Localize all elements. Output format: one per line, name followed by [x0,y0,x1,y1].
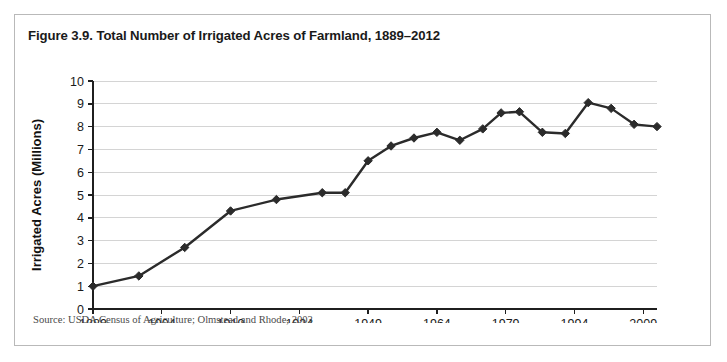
x-tick-label: 1994 [561,317,589,323]
data-point-marker [653,122,661,130]
x-tick-label: 2009 [629,317,657,323]
data-point-marker [433,128,441,136]
series-line [93,103,657,287]
y-tick-label: 10 [70,75,84,89]
data-point-markers [89,98,661,290]
y-axis-title: Irrigated Acres (Millions) [29,119,44,271]
data-point-marker [272,195,280,203]
data-point-marker [456,136,464,144]
data-point-marker [410,134,418,142]
y-tick-label: 3 [77,234,84,248]
data-series [93,103,657,287]
data-point-marker [89,282,97,290]
x-tick-label: 1979 [492,317,520,323]
y-tick-label: 5 [77,189,84,203]
source-note: Source: USDA Census of Agriculture; Olms… [33,314,313,325]
y-tick-label: 9 [77,97,84,111]
chart-canvas: 012345678910 188919041919193419491964197… [15,55,710,323]
figure-title: Figure 3.9. Total Number of Irrigated Ac… [28,28,440,43]
y-tick-label: 2 [77,257,84,271]
y-tick-label: 6 [77,166,84,180]
y-tick-label: 4 [77,211,84,225]
line-chart: 012345678910 188919041919193419491964197… [15,55,710,323]
y-tick-label: 1 [77,280,84,294]
x-tick-label: 1964 [423,317,451,323]
y-tick-label: 7 [77,143,84,157]
y-axis-tick-labels: 012345678910 [70,75,84,317]
y-tick-label: 8 [77,120,84,134]
x-tick-label: 1949 [354,317,382,323]
grid-lines [93,81,657,286]
tick-marks [88,81,643,314]
data-point-marker [318,189,326,197]
figure-card: Figure 3.9. Total Number of Irrigated Ac… [14,14,711,346]
